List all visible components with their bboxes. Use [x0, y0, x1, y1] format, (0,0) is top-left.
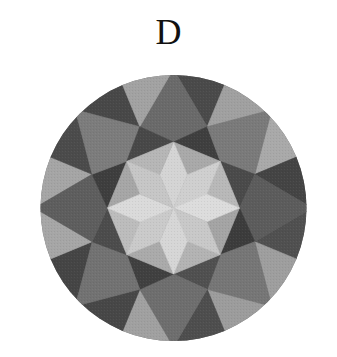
grain-overlay: [41, 75, 307, 341]
gemstone-facet-diagram: [0, 0, 337, 357]
